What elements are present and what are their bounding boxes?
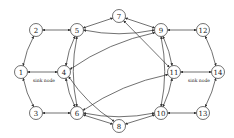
edge-5-6 — [73, 37, 77, 107]
node-13: 13 — [197, 107, 210, 120]
node-label: 12 — [199, 27, 208, 35]
node-label: 1 — [19, 69, 23, 77]
node-label: 6 — [75, 110, 80, 118]
edge-9-10 — [161, 37, 165, 107]
node-6: 6 — [71, 107, 84, 120]
edge-6-11 — [83, 75, 168, 111]
edge-5-7 — [83, 18, 113, 28]
node-4: 4 — [58, 66, 71, 79]
node-10: 10 — [155, 107, 168, 120]
node-14: 14 — [212, 66, 225, 79]
edges-layer — [23, 18, 216, 124]
edge-12-14 — [205, 36, 216, 66]
sink-node-label: sink node — [33, 78, 55, 83]
node-label: 14 — [214, 69, 223, 77]
node-label: 13 — [199, 110, 208, 118]
node-label: 4 — [62, 69, 67, 77]
edge-1-2 — [23, 36, 34, 66]
node-3: 3 — [30, 107, 43, 120]
node-8: 8 — [113, 120, 126, 133]
edge-6-10 — [84, 113, 155, 117]
node-label: 9 — [159, 27, 163, 35]
node-5: 5 — [71, 24, 84, 37]
node-label: 8 — [117, 123, 121, 131]
edge-5-9 — [84, 30, 155, 34]
node-label: 10 — [157, 110, 166, 118]
node-label: 5 — [75, 27, 79, 35]
network-diagram: 1234567891011121314 sink nodesink node — [0, 0, 234, 138]
sink-node-label: sink node — [188, 78, 210, 83]
node-label: 7 — [117, 13, 121, 21]
node-label: 3 — [34, 110, 38, 118]
node-1: 1 — [15, 66, 28, 79]
node-12: 12 — [197, 24, 210, 37]
edge-4-9 — [70, 33, 155, 70]
node-2: 2 — [30, 24, 43, 37]
annotations-layer: sink nodesink node — [33, 78, 210, 83]
node-label: 2 — [34, 27, 38, 35]
node-label: 11 — [170, 69, 179, 77]
nodes-layer: 1234567891011121314 — [15, 10, 225, 133]
node-7: 7 — [113, 10, 126, 23]
node-9: 9 — [155, 24, 168, 37]
node-11: 11 — [168, 66, 181, 79]
